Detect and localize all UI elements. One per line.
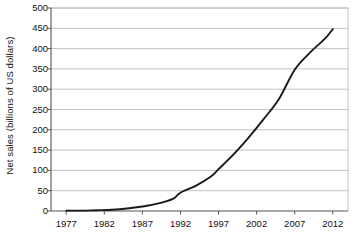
x-axis-tick-label: 2002: [246, 218, 267, 229]
x-axis-tick-label: 1992: [170, 218, 191, 229]
net-sales-line-chart: Net sales (billions of US dollars) 05010…: [0, 0, 357, 251]
x-axis-tick-label: 2012: [322, 218, 343, 229]
x-axis-tick-label: 1997: [208, 218, 229, 229]
x-axis-tick-labels: 19771982198719921997200220072012: [0, 0, 357, 251]
x-axis-tick-label: 1977: [56, 218, 77, 229]
x-axis-tick-label: 1987: [132, 218, 153, 229]
x-axis-tick-label: 2007: [284, 218, 305, 229]
x-axis-tick-label: 1982: [94, 218, 115, 229]
